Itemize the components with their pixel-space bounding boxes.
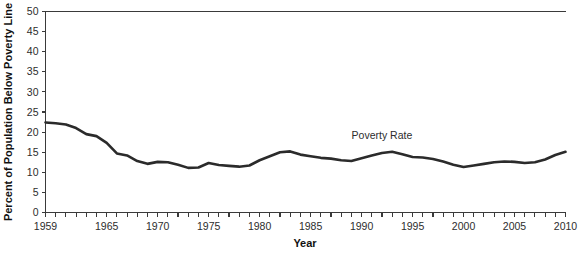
chart-figure: Percent of Population Below Poverty Line…: [0, 0, 581, 255]
x-tick-label-1985: 1985: [299, 220, 323, 232]
y-tick-label-5: 5: [33, 186, 39, 198]
poverty-rate-line-chart: Percent of Population Below Poverty Line…: [0, 0, 581, 255]
annotation-poverty-rate-label: Poverty Rate: [352, 129, 413, 141]
x-tick-label-1980: 1980: [248, 220, 272, 232]
y-axis-title: Percent of Population Below Poverty Line: [2, 3, 14, 221]
y-tick-label-10: 10: [27, 166, 39, 178]
y-tick-label-40: 40: [27, 45, 39, 57]
x-tick-label-1995: 1995: [401, 220, 425, 232]
y-tick-label-20: 20: [27, 126, 39, 138]
x-axis-title-label: Year: [293, 237, 317, 249]
x-tick-label-2005: 2005: [503, 220, 527, 232]
y-tick-label-25: 25: [27, 106, 39, 118]
chart-annotations: Poverty Rate: [352, 129, 413, 141]
y-tick-label-35: 35: [27, 65, 39, 77]
x-tick-label-2000: 2000: [452, 220, 476, 232]
x-tick-label-2010: 2010: [554, 220, 578, 232]
x-axis-title: Year: [293, 237, 317, 249]
x-tick-label-1965: 1965: [95, 220, 119, 232]
y-tick-label-0: 0: [33, 206, 39, 218]
y-tick-label-30: 30: [27, 86, 39, 98]
x-tick-label-1959: 1959: [34, 220, 58, 232]
y-tick-label-15: 15: [27, 146, 39, 158]
x-tick-label-1975: 1975: [197, 220, 221, 232]
x-tick-label-1970: 1970: [146, 220, 170, 232]
y-axis-title-label: Percent of Population Below Poverty Line: [2, 3, 14, 221]
y-tick-label-45: 45: [27, 25, 39, 37]
y-tick-label-50: 50: [27, 5, 39, 17]
x-tick-label-1990: 1990: [350, 220, 374, 232]
